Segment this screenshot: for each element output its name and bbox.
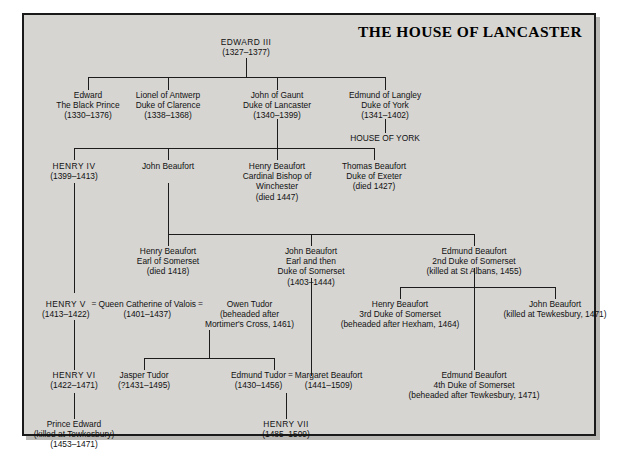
node-dates: (1485–1509) [262, 429, 310, 439]
connector-line [74, 183, 75, 293]
connector-line [311, 234, 312, 246]
node-line3: Mortimer's Cross, 1461) [205, 319, 294, 329]
node-line2: Duke of Lancaster [243, 100, 311, 110]
node-edward-black-prince[interactable]: Edward The Black Prince (1330–1376) [56, 90, 119, 121]
node-prince-edward[interactable]: Prince Edward (killed at Tewkesbury) (14… [34, 419, 114, 450]
connector-line [74, 148, 75, 160]
node-dates: (?1431–1495) [118, 380, 170, 390]
node-name: Edmund of Langley [349, 90, 421, 100]
node-margaret-beaufort[interactable]: Margaret Beaufort (1441–1509) [295, 370, 363, 390]
connector-line [74, 148, 374, 149]
node-dates: (1441–1509) [305, 380, 353, 390]
node-line2: The Black Prince [56, 100, 119, 110]
node-owen-tudor[interactable]: Owen Tudor (beheaded after Mortimer's Cr… [205, 299, 294, 330]
node-name: Edmund Tudor [231, 370, 286, 380]
node-henry7[interactable]: HENRY VII (1485–1509) [262, 419, 310, 439]
node-john-of-gaunt[interactable]: John of Gaunt Duke of Lancaster (1340–13… [243, 90, 311, 121]
node-thomas-beaufort[interactable]: Thomas Beaufort Duke of Exeter (died 142… [342, 161, 406, 192]
node-name: John Beaufort [142, 161, 194, 171]
node-henry-beaufort-3rd-duke[interactable]: Henry Beaufort 3rd Duke of Somerset (beh… [341, 299, 460, 330]
connector-line [144, 358, 145, 370]
node-jasper-tudor[interactable]: Jasper Tudor (?1431–1495) [118, 370, 170, 390]
connector-line [385, 119, 386, 133]
connector-line [144, 358, 274, 359]
node-name: Prince Edward [34, 419, 114, 429]
connector-line [474, 234, 475, 246]
node-edmund-beaufort-2nd-duke[interactable]: Edmund Beaufort 2nd Duke of Somerset (ki… [427, 246, 522, 277]
node-john-beaufort-1[interactable]: John Beaufort [142, 161, 194, 171]
node-edmund-tudor[interactable]: Edmund Tudor (1430–1456) [231, 370, 286, 390]
node-name: EDWARD III [221, 37, 272, 47]
connector-line [400, 287, 555, 288]
node-name: Owen Tudor [227, 299, 273, 309]
node-line2: 3rd Duke of Somerset [341, 309, 460, 319]
node-lionel-of-antwerp[interactable]: Lionel of Antwerp Duke of Clarence (1338… [136, 90, 201, 121]
node-line2: Earl of Somerset [137, 256, 199, 266]
marriage-group-henry5: HENRY V (1413–1422) = Queen Catherine of… [42, 299, 294, 330]
node-line2: Cardinal Bishop of [243, 171, 311, 181]
node-dates: (1327–1377) [221, 47, 272, 57]
node-dates: (killed at St Albans, 1455) [427, 266, 522, 276]
node-dates: (1330–1376) [56, 110, 119, 120]
node-name: HENRY IV [50, 161, 98, 171]
connector-line [400, 287, 401, 299]
connector-line [168, 148, 169, 160]
family-tree-chart: THE HOUSE OF LANCASTER [0, 0, 618, 458]
connector-line [555, 287, 556, 299]
node-edward3[interactable]: EDWARD III (1327–1377) [221, 37, 272, 57]
node-dates: (1413–1422) [42, 309, 90, 319]
chart-frame: THE HOUSE OF LANCASTER [22, 13, 596, 436]
node-henry6[interactable]: HENRY VI (1422–1471) [50, 370, 98, 390]
node-house-of-york[interactable]: HOUSE OF YORK [350, 133, 420, 143]
node-line2: Earl and then [277, 256, 344, 266]
node-dates: (1403–1444) [277, 277, 344, 287]
node-dates: (died 1418) [137, 266, 199, 276]
connector-line [168, 183, 169, 234]
connector-line [277, 119, 278, 148]
node-name: John Beaufort [277, 246, 344, 256]
node-dates: (1340–1399) [243, 110, 311, 120]
node-name: Henry Beaufort [243, 161, 311, 171]
node-name: Lionel of Antwerp [136, 90, 201, 100]
node-line2: 4th Duke of Somerset [409, 380, 540, 390]
node-line2: 2nd Duke of Somerset [427, 256, 522, 266]
node-dates: (1422–1471) [50, 380, 98, 390]
node-edmund-of-langley[interactable]: Edmund of Langley Duke of York (1341–140… [349, 90, 421, 121]
node-name: HENRY V [46, 299, 86, 309]
node-line2: Duke of Clarence [136, 100, 201, 110]
node-henry5[interactable]: HENRY V (1413–1422) [42, 299, 90, 319]
node-name: HENRY VII [262, 419, 310, 429]
connector-line [168, 234, 169, 246]
connector-line [88, 77, 385, 78]
connector-line [277, 77, 278, 90]
marriage-symbol: = [90, 298, 99, 308]
connector-line [311, 278, 312, 376]
connector-line [274, 358, 275, 370]
node-line2: Duke of Exeter [342, 171, 406, 181]
node-henry-beaufort-earl[interactable]: Henry Beaufort Earl of Somerset (died 14… [137, 246, 199, 277]
node-henry-beaufort-cardinal[interactable]: Henry Beaufort Cardinal Bishop of Winche… [243, 161, 311, 202]
node-dates: (1341–1402) [349, 110, 421, 120]
node-john-beaufort-2[interactable]: John Beaufort Earl and then Duke of Some… [277, 246, 344, 287]
marriage-symbol: = [196, 298, 205, 308]
node-name: Edmund Beaufort [409, 370, 540, 380]
connector-line [74, 393, 75, 419]
node-name: Henry Beaufort [341, 299, 460, 309]
node-name: Thomas Beaufort [342, 161, 406, 171]
node-dates: (died 1427) [342, 181, 406, 191]
node-dates: (1453–1471) [34, 439, 114, 449]
node-dates: (died 1447) [243, 192, 311, 202]
node-name: Margaret Beaufort [295, 370, 363, 380]
node-dates: (killed at Tewkesbury, 1471) [503, 309, 606, 319]
node-john-beaufort-3[interactable]: John Beaufort (killed at Tewkesbury, 147… [503, 299, 606, 319]
node-catherine[interactable]: Queen Catherine of Valois (1401–1437) [98, 299, 196, 319]
node-dates: (1399–1413) [50, 171, 98, 181]
node-edmund-beaufort-4th-duke[interactable]: Edmund Beaufort 4th Duke of Somerset (be… [409, 370, 540, 401]
node-dates: (1338–1368) [136, 110, 201, 120]
node-dates: (1430–1456) [235, 380, 283, 390]
node-name: Jasper Tudor [118, 370, 170, 380]
node-line3: Duke of Somerset [277, 266, 344, 276]
marriage-symbol: = [286, 369, 295, 379]
node-dates: (1401–1437) [123, 309, 171, 319]
node-henry4[interactable]: HENRY IV (1399–1413) [50, 161, 98, 181]
